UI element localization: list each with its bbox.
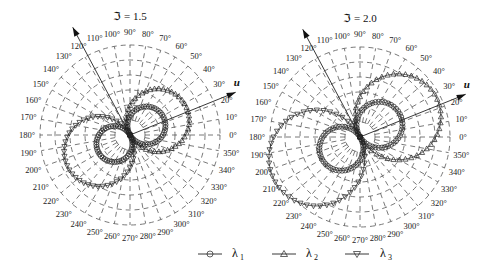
legend-label: λ bbox=[306, 246, 312, 260]
angle-tick-label: 10° bbox=[455, 114, 467, 124]
triangle-down-marker-icon bbox=[289, 115, 294, 120]
angle-tick-label: 230° bbox=[56, 209, 72, 219]
angle-tick-label: 30° bbox=[443, 81, 455, 91]
angle-tick-label: 270° bbox=[352, 235, 368, 245]
angle-tick-label: 330° bbox=[441, 184, 457, 194]
grid-spoke bbox=[365, 151, 391, 221]
arrowhead-icon bbox=[303, 29, 310, 38]
angle-tick-label: 100° bbox=[104, 29, 120, 39]
grid-spoke bbox=[302, 68, 350, 125]
legend-item-lambda1: λ 1 bbox=[198, 246, 244, 262]
grid-spoke bbox=[275, 142, 345, 168]
angle-tick-label: 240° bbox=[70, 219, 86, 229]
angle-tick-label: 340° bbox=[219, 165, 235, 175]
legend: λ 1 λ 2 λ 3 bbox=[198, 246, 392, 262]
angle-tick-label: 140° bbox=[43, 64, 59, 74]
angle-tick-label: 260° bbox=[334, 233, 350, 243]
angle-tick-label: 350° bbox=[453, 150, 469, 160]
angle-tick-label: 290° bbox=[387, 229, 403, 239]
triangle-up-marker-icon bbox=[419, 78, 424, 83]
grid-spoke bbox=[99, 50, 125, 120]
legend-item-lambda2: λ 2 bbox=[272, 246, 318, 262]
triangle-down-marker-icon bbox=[311, 204, 316, 209]
triangle-up-marker-icon bbox=[374, 151, 379, 156]
triangle-down-marker-icon bbox=[100, 184, 105, 189]
angle-tick-label: 310° bbox=[188, 209, 204, 219]
polar-charts: ℑ = 1.50°10°20°30°40°50°60°70°80°90°100°… bbox=[0, 0, 487, 276]
chart-title: ℑ = 2.0 bbox=[343, 12, 377, 24]
angle-tick-label: 250° bbox=[317, 229, 333, 239]
legend-label: λ bbox=[232, 246, 238, 260]
grid-spoke bbox=[329, 52, 355, 122]
angle-tick-label: 110° bbox=[317, 35, 333, 45]
angle-tick-label: 190° bbox=[250, 150, 266, 160]
angle-tick-label: 100° bbox=[334, 31, 350, 41]
angle-tick-label: 320° bbox=[201, 196, 217, 206]
angle-tick-label: 270° bbox=[122, 233, 138, 243]
arrowhead-icon bbox=[73, 27, 80, 36]
angle-tick-label: 230° bbox=[286, 211, 302, 221]
angle-tick-label: 80° bbox=[142, 29, 154, 39]
angle-tick-label: 30° bbox=[213, 79, 225, 89]
polar-chart-left: ℑ = 1.50°10°20°30°40°50°60°70°80°90°100°… bbox=[19, 10, 240, 243]
angle-tick-label: 10° bbox=[225, 112, 237, 122]
axis-u-label: u bbox=[234, 76, 240, 88]
angle-tick-label: 110° bbox=[87, 33, 103, 43]
legend-subscript: 3 bbox=[388, 253, 392, 262]
angle-tick-label: 250° bbox=[87, 227, 103, 237]
angle-tick-label: 50° bbox=[190, 51, 202, 61]
angle-tick-label: 300° bbox=[403, 221, 419, 231]
angle-tick-label: 170° bbox=[20, 112, 36, 122]
axis-v-line bbox=[303, 29, 360, 137]
angle-tick-label: 70° bbox=[389, 35, 401, 45]
angle-tick-label: 210° bbox=[263, 184, 279, 194]
angle-tick-label: 150° bbox=[33, 79, 49, 89]
polar-chart-right: ℑ = 2.00°10°20°30°40°50°60°70°80°90°100°… bbox=[249, 12, 470, 245]
triangle-up-marker-icon bbox=[397, 71, 402, 76]
angle-tick-label: 340° bbox=[449, 167, 465, 177]
angle-tick-label: 350° bbox=[223, 148, 239, 158]
angle-tick-label: 320° bbox=[431, 198, 447, 208]
grid-spoke bbox=[329, 151, 355, 221]
angle-tick-label: 60° bbox=[406, 43, 418, 53]
triangle-down-marker-icon bbox=[334, 112, 339, 117]
angle-tick-label: 0° bbox=[229, 130, 237, 140]
angle-tick-label: 70° bbox=[159, 33, 171, 43]
legend-item-lambda3: λ 3 bbox=[345, 246, 392, 262]
grid-spoke bbox=[135, 149, 161, 219]
angle-tick-label: 280° bbox=[140, 231, 156, 241]
angle-tick-label: 180° bbox=[19, 130, 35, 140]
grid-spoke bbox=[371, 147, 428, 195]
grid-spoke bbox=[72, 146, 120, 203]
angle-tick-label: 200° bbox=[25, 165, 41, 175]
angle-tick-label: 130° bbox=[286, 53, 302, 63]
angle-tick-label: 220° bbox=[273, 198, 289, 208]
grid-spoke bbox=[291, 79, 348, 127]
angle-tick-label: 300° bbox=[173, 219, 189, 229]
angle-tick-label: 150° bbox=[263, 81, 279, 91]
angle-tick-label: 60° bbox=[176, 41, 188, 51]
chart-title: ℑ = 1.5 bbox=[113, 10, 147, 22]
grid-spoke bbox=[371, 79, 428, 127]
angle-tick-label: 210° bbox=[33, 182, 49, 192]
angle-tick-label: 260° bbox=[104, 231, 120, 241]
angle-tick-label: 0° bbox=[459, 132, 467, 142]
angle-tick-label: 200° bbox=[255, 167, 271, 177]
angle-tick-label: 280° bbox=[370, 233, 386, 243]
angle-tick-label: 240° bbox=[300, 221, 316, 231]
angle-tick-label: 50° bbox=[420, 53, 432, 63]
angle-tick-label: 40° bbox=[433, 66, 445, 76]
angle-tick-label: 40° bbox=[203, 64, 215, 74]
grid-spoke bbox=[302, 148, 350, 205]
angle-tick-label: 180° bbox=[249, 132, 265, 142]
legend-label: λ bbox=[380, 246, 386, 260]
triangle-up-marker-icon bbox=[424, 82, 429, 87]
angle-tick-label: 290° bbox=[157, 227, 173, 237]
grid-spoke bbox=[374, 142, 444, 168]
angle-tick-label: 330° bbox=[211, 182, 227, 192]
angle-tick-label: 170° bbox=[250, 114, 266, 124]
triangle-down-marker-icon bbox=[337, 198, 342, 203]
angle-tick-label: 160° bbox=[25, 95, 41, 105]
triangle-up-marker-icon bbox=[281, 251, 288, 257]
angle-tick-label: 90° bbox=[124, 27, 136, 37]
